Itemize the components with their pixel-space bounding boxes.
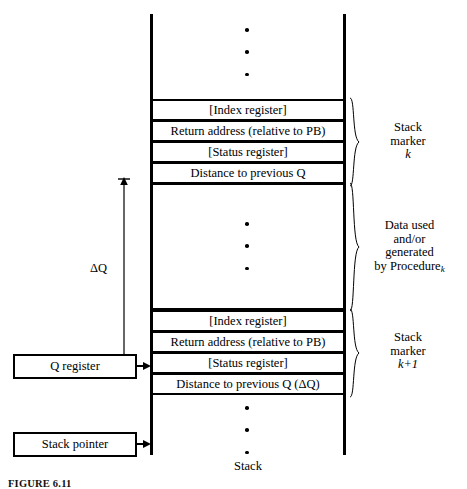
label-line: by Procedure	[374, 259, 440, 273]
q-register-box[interactable]: Q register	[13, 354, 137, 379]
figure-canvas: [Index register] Return address (relativ…	[0, 0, 467, 489]
label-stack-marker-k1: Stack marker k+1	[368, 331, 448, 372]
row-return-address-k: Return address (relative to PB)	[150, 120, 346, 142]
delta-q-dimension-arrow	[113, 176, 135, 372]
label-line: Data used	[362, 219, 457, 233]
row-label: [Index register]	[209, 315, 286, 328]
delta-q-label: ΔQ	[90, 261, 107, 276]
row-label: [Status register]	[208, 357, 288, 370]
row-label: Return address (relative to PB)	[171, 336, 326, 349]
label-stack-marker-k: Stack marker k	[368, 121, 448, 162]
row-status-register-k1: [Status register]	[150, 352, 346, 374]
label-line: Stack	[368, 331, 448, 345]
brace-stack-marker-k	[348, 97, 364, 187]
row-label: Distance to previous Q (ΔQ)	[176, 378, 319, 391]
stack-label: Stack	[196, 459, 300, 474]
row-label: Return address (relative to PB)	[171, 125, 326, 138]
top-ellipsis	[242, 28, 252, 76]
brace-stack-marker-k1	[348, 308, 364, 398]
label-line: marker	[368, 135, 448, 149]
row-label: Distance to previous Q	[191, 167, 306, 180]
data-area-ellipsis	[242, 222, 252, 270]
q-register-arrowhead	[141, 360, 153, 372]
row-distance-previous-q-k: Distance to previous Q	[150, 162, 346, 184]
label-subscript: k	[441, 264, 445, 274]
row-index-register-k1: [Index register]	[150, 310, 346, 332]
stack-pointer-label: Stack pointer	[42, 437, 108, 452]
row-index-register-k: [Index register]	[150, 99, 346, 121]
label-line-procedure: by Procedurek	[362, 260, 457, 277]
row-status-register-k: [Status register]	[150, 141, 346, 163]
label-line: k	[368, 148, 448, 162]
figure-caption: FIGURE 6.11	[8, 478, 71, 489]
row-distance-previous-q-k1: Distance to previous Q (ΔQ)	[150, 373, 346, 395]
bottom-ellipsis	[242, 406, 252, 454]
label-line: k+1	[368, 358, 448, 372]
stack-pointer-box[interactable]: Stack pointer	[13, 432, 137, 457]
label-line: and/or	[362, 233, 457, 247]
label-line: marker	[368, 345, 448, 359]
row-label: [Index register]	[209, 104, 286, 117]
label-line: Stack	[368, 121, 448, 135]
q-register-label: Q register	[50, 359, 100, 374]
stack-pointer-arrowhead	[141, 438, 153, 450]
row-return-address-k1: Return address (relative to PB)	[150, 331, 346, 353]
label-line: generated	[362, 246, 457, 260]
label-data-area: Data used and/or generated by Procedurek	[362, 219, 457, 276]
row-label: [Status register]	[208, 146, 288, 159]
